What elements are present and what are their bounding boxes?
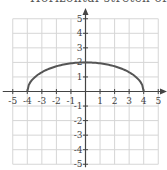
x-tick-label: 3 <box>126 96 132 106</box>
x-tick-label: -3 <box>37 96 46 106</box>
x-axis-arrow-icon <box>160 89 167 95</box>
x-tick-label: -4 <box>23 96 32 106</box>
y-tick-label: -5 <box>74 159 83 169</box>
y-tick-label: -3 <box>74 130 83 140</box>
x-tick-label: 4 <box>141 96 147 106</box>
y-tick-label: 3 <box>77 43 83 53</box>
y-tick-label: 1 <box>77 72 83 82</box>
y-axis-arrow-icon <box>83 8 89 15</box>
x-tick-label: 2 <box>112 96 118 106</box>
x-tick-label: 5 <box>155 96 161 106</box>
y-tick-label: -4 <box>74 145 83 155</box>
y-tick-label: 4 <box>77 28 83 38</box>
y-tick-label: 5 <box>77 14 83 24</box>
x-tick-label: -5 <box>8 96 17 106</box>
x-tick-label: 1 <box>97 96 103 106</box>
graph-canvas: -5-4-3-2-112345-5-4-3-2-112345 <box>0 0 167 170</box>
y-tick-label: -1 <box>74 101 83 111</box>
y-tick-label: -2 <box>74 116 83 126</box>
x-tick-label: -2 <box>52 96 61 106</box>
